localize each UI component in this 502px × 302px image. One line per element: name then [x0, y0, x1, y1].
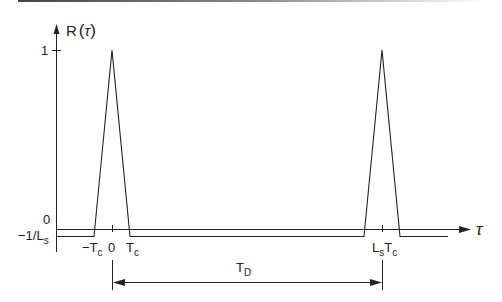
- autocorrelation-diagram: R(τ) 1 0 −1/Ls −Tc 0 Tc LsTc τ TD: [0, 0, 502, 302]
- x-tick-label-period: LsTc: [372, 240, 397, 258]
- x-tick-label-tc: Tc: [126, 240, 139, 258]
- y-tick-label-zero: 0: [43, 212, 50, 227]
- td-left-arrow-icon: [113, 279, 125, 286]
- td-label: TD: [236, 260, 251, 278]
- x-tick-label-zero: 0: [108, 240, 115, 255]
- top-rule: [18, 0, 488, 2]
- td-right-arrow-icon: [370, 279, 382, 286]
- x-axis-label: τ: [476, 220, 484, 239]
- x-tick-label-neg-tc: −Tc: [82, 240, 103, 258]
- y-tick-label-neg: −1/Ls: [18, 228, 49, 246]
- x-axis-arrow-icon: [459, 226, 471, 233]
- y-tick-label-one: 1: [41, 43, 48, 58]
- correlation-curve: [56, 50, 448, 237]
- y-axis-label: R(τ): [66, 21, 96, 40]
- y-axis-arrow-icon: [54, 24, 60, 34]
